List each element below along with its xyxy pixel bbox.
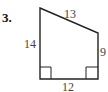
problem-number: 3. — [2, 10, 12, 25]
trapezoid-diagram: 3. 14 13 9 12 — [0, 0, 108, 92]
right-angle-marker-bottom-left — [40, 67, 51, 79]
right-angle-marker-bottom-right — [86, 67, 98, 79]
side-label-right: 9 — [100, 45, 106, 59]
side-label-left: 14 — [24, 37, 36, 51]
side-label-bottom: 12 — [62, 80, 74, 92]
side-label-top: 13 — [64, 7, 76, 21]
